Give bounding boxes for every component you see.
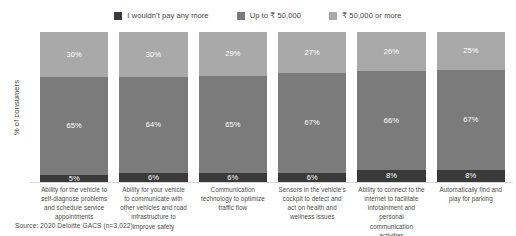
x-axis-category-label: Communication technology to optimize tra…: [199, 185, 267, 212]
bar-segment-value-label: 64%: [146, 121, 161, 129]
stacked-bar[interactable]: 26%66%8%: [357, 32, 425, 182]
stacked-bar[interactable]: 30%64%6%: [119, 32, 187, 182]
bar-segment-value-label: 8%: [465, 172, 476, 180]
stacked-bar[interactable]: 25%67%8%: [437, 32, 505, 182]
bar-segment[interactable]: 6%: [119, 173, 187, 182]
bar-segment-value-label: 6%: [307, 174, 318, 182]
bar-segment[interactable]: 25%: [437, 32, 505, 70]
x-axis-category-label: Ability for the vehicle to self-diagnose…: [40, 185, 108, 222]
y-axis-label: % of consumers: [4, 32, 30, 182]
bar-segment[interactable]: 27%: [278, 32, 346, 73]
square-swatch-icon: [329, 12, 337, 20]
bar-segment-value-label: 6%: [227, 174, 238, 182]
y-axis-label-text: % of consumers: [13, 79, 22, 134]
bar-segment[interactable]: 65%: [40, 77, 108, 175]
bar-segment-value-label: 65%: [67, 122, 82, 130]
bar-segment[interactable]: 26%: [357, 32, 425, 71]
legend-item[interactable]: I wouldn't pay any more: [114, 12, 208, 20]
bar-segment-value-label: 67%: [304, 119, 319, 127]
bar-segment[interactable]: 66%: [357, 71, 425, 170]
x-axis-line: [30, 182, 513, 183]
bar-segment-value-label: 30%: [146, 51, 161, 59]
bar-segment-value-label: 66%: [384, 117, 399, 125]
plot-area: % of consumers 30%65%5%30%64%6%29%65%6%2…: [0, 32, 516, 182]
bar-segment-value-label: 8%: [386, 172, 397, 180]
bar-segment-value-label: 29%: [225, 50, 240, 58]
stacked-bar-chart: I wouldn't pay any moreUp to ₹ 50,000₹ 5…: [0, 0, 516, 236]
bar-segment-value-label: 6%: [148, 174, 159, 182]
bar-segment[interactable]: 29%: [199, 32, 267, 76]
x-axis-category-label: Ability to connect to the internet to fa…: [357, 185, 425, 236]
stacked-bar[interactable]: 30%65%5%: [40, 32, 108, 182]
bar-segment-value-label: 65%: [225, 121, 240, 129]
bar-segment[interactable]: 8%: [437, 170, 505, 182]
bar-segment-value-label: 30%: [67, 51, 82, 59]
bar-segment[interactable]: 30%: [119, 32, 187, 77]
source-note: Source: 2020 Deloitte GACS (n=3,022): [15, 222, 133, 229]
bar-segment[interactable]: 67%: [278, 73, 346, 174]
chart-legend: I wouldn't pay any moreUp to ₹ 50,000₹ 5…: [0, 12, 516, 20]
bar-segment[interactable]: 67%: [437, 70, 505, 171]
bar-segment[interactable]: 65%: [199, 76, 267, 174]
bar-segment-value-label: 26%: [384, 48, 399, 56]
bar-group: 30%65%5%30%64%6%29%65%6%27%67%6%26%66%8%…: [30, 32, 516, 182]
x-axis-category-label: Automatically find and play for parking: [437, 185, 505, 203]
legend-item-label: Up to ₹ 50,000: [250, 12, 301, 20]
stacked-bar[interactable]: 27%67%6%: [278, 32, 346, 182]
square-swatch-icon: [114, 12, 122, 20]
legend-item-label: ₹ 50,000 or more: [342, 12, 402, 20]
x-axis-category-label: Sensors in the vehicle's cockpit to dete…: [278, 185, 346, 222]
square-swatch-icon: [237, 12, 245, 20]
bar-segment-value-label: 67%: [463, 116, 478, 124]
legend-item[interactable]: ₹ 50,000 or more: [329, 12, 402, 20]
bar-segment-value-label: 25%: [463, 47, 478, 55]
bar-segment[interactable]: 6%: [199, 173, 267, 182]
stacked-bar[interactable]: 29%65%6%: [199, 32, 267, 182]
bar-segment[interactable]: 30%: [40, 32, 108, 77]
bar-segment[interactable]: 6%: [278, 173, 346, 182]
bar-segment[interactable]: 64%: [119, 77, 187, 173]
bar-segment[interactable]: 8%: [357, 170, 425, 182]
legend-item-label: I wouldn't pay any more: [127, 12, 208, 20]
bar-segment-value-label: 5%: [69, 175, 80, 183]
bar-segment[interactable]: 5%: [40, 175, 108, 183]
bar-segment-value-label: 27%: [304, 49, 319, 57]
legend-item[interactable]: Up to ₹ 50,000: [237, 12, 301, 20]
